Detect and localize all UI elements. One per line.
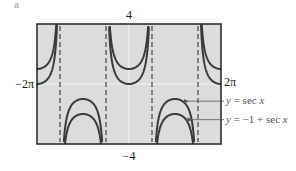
chart: 4 −4 −2π 2π y = sec xy = −1 + sec x (0, 0, 296, 171)
y-max-label: 4 (126, 8, 132, 22)
x-min-label: −2π (15, 77, 34, 91)
annotation-label: y = sec x (225, 94, 264, 106)
y-min-label: −4 (123, 149, 136, 163)
annotation-label: y = −1 + sec x (225, 113, 288, 125)
x-max-label: 2π (224, 75, 236, 89)
